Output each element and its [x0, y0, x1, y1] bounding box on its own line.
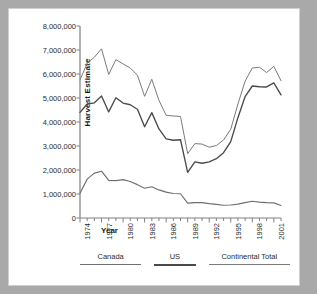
y-tick-label: 8,000,000: [43, 22, 76, 31]
y-tick-label: 3,000,000: [43, 142, 76, 151]
series-line: [80, 49, 281, 154]
legend-item: US: [154, 252, 195, 266]
figure-panel: Harvest Estimate 01,000,0002,000,0003,00…: [8, 8, 300, 286]
legend-item-label: Continental Total: [221, 252, 277, 262]
x-tick-label: 1998: [255, 223, 264, 240]
chart-canvas: [80, 26, 281, 218]
legend-item: Canada: [80, 252, 141, 265]
x-tick-label: 1995: [234, 223, 243, 240]
y-tick-label: 0: [72, 214, 76, 223]
y-tick-label: 7,000,000: [43, 46, 76, 55]
legend-item-swatch: [80, 264, 141, 265]
series-line: [80, 171, 281, 205]
x-axis-title: Year: [9, 226, 210, 235]
y-tick-label: 2,000,000: [43, 166, 76, 175]
plot-area: Harvest Estimate 01,000,0002,000,0003,00…: [80, 26, 281, 218]
y-tick-label: 5,000,000: [43, 94, 76, 103]
legend-item-swatch: [209, 264, 290, 265]
legend-item: Continental Total: [209, 252, 290, 265]
y-tick-label: 4,000,000: [43, 118, 76, 127]
x-tick-label: 1992: [212, 223, 221, 240]
legend-item-label: Canada: [98, 252, 124, 262]
chart-legend: CanadaUSContinental Total: [80, 252, 290, 266]
axis-lines: [80, 26, 281, 218]
x-tick-label: 2001: [277, 223, 286, 240]
series-lines: [80, 49, 281, 206]
tick-marks: [77, 26, 282, 223]
legend-item-label: US: [170, 252, 180, 262]
y-tick-label: 6,000,000: [43, 70, 76, 79]
y-tick-label: 1,000,000: [43, 190, 76, 199]
series-line: [80, 83, 281, 173]
legend-item-swatch: [154, 264, 195, 266]
chart-screenshot: Harvest Estimate 01,000,0002,000,0003,00…: [0, 0, 317, 294]
